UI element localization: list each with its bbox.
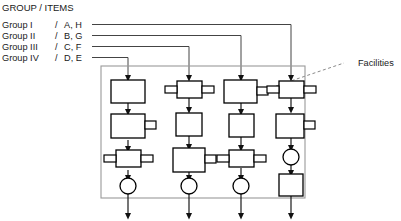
process-node-tab-right [304, 121, 315, 129]
process-node-tab-right [257, 87, 268, 95]
flow-column-1 [104, 80, 156, 216]
legend-title: GROUP / ITEMS [2, 2, 74, 13]
process-node [111, 114, 145, 138]
flow-column-3 [217, 80, 268, 216]
process-node-tab-right [145, 121, 156, 129]
process-node [177, 81, 202, 98]
facilities-label: Facilities [358, 58, 394, 68]
process-node-circle [120, 178, 136, 194]
feeder-line-group-i [92, 25, 291, 79]
process-node-tab-right [304, 86, 316, 93]
process-node-tab-left [217, 155, 229, 162]
process-node [276, 114, 304, 138]
process-node [229, 150, 254, 167]
process-node-circle [181, 178, 197, 194]
legend-separator: / [55, 20, 58, 30]
legend-group-label: Group IV [2, 53, 40, 63]
legend-separator: / [55, 31, 58, 41]
legend-row: Group II / B, G [2, 31, 82, 41]
process-node [279, 174, 303, 196]
process-node [279, 81, 304, 98]
process-node-tab-left [104, 155, 116, 162]
legend-separator: / [55, 53, 58, 63]
flow-column-4 [267, 81, 316, 216]
feeder-line-group-iv [92, 58, 128, 79]
process-node-circle [233, 178, 249, 194]
legend-row: Group IV / D, E [2, 53, 82, 63]
process-node [229, 114, 254, 137]
legend-separator: / [55, 42, 58, 52]
feeder-line-group-iii [92, 47, 189, 79]
legend-group-label: Group I [2, 20, 33, 30]
feeder-lines [92, 25, 291, 79]
process-node [111, 80, 145, 103]
process-node-circle [283, 149, 299, 165]
process-node [116, 150, 141, 167]
flow-column-2 [165, 81, 216, 216]
process-node-tab-right [205, 155, 216, 163]
process-node [224, 80, 257, 103]
legend-items-label: B, G [64, 31, 82, 41]
process-node [176, 113, 202, 136]
legend-group-label: Group II [2, 31, 35, 41]
process-node-tab-right [202, 86, 214, 93]
process-node [173, 148, 205, 172]
diagram-canvas: GROUP / ITEMS Group I / A, H Group II / … [0, 0, 401, 221]
legend-row: Group III / C, F [2, 42, 82, 52]
process-flow-diagram: GROUP / ITEMS Group I / A, H Group II / … [0, 0, 401, 221]
legend-items-label: C, F [64, 42, 82, 52]
legend-row: Group I / A, H [2, 20, 82, 30]
legend-items-label: D, E [64, 53, 82, 63]
process-node-tab-left [267, 86, 279, 93]
legend-block: GROUP / ITEMS Group I / A, H Group II / … [2, 2, 82, 63]
feeder-line-group-ii [92, 36, 241, 79]
legend-group-label: Group III [2, 42, 38, 52]
process-node-tab-right [141, 155, 153, 162]
process-node-tab-right [254, 155, 266, 162]
process-node-tab-left [165, 86, 177, 93]
legend-items-label: A, H [64, 20, 82, 30]
